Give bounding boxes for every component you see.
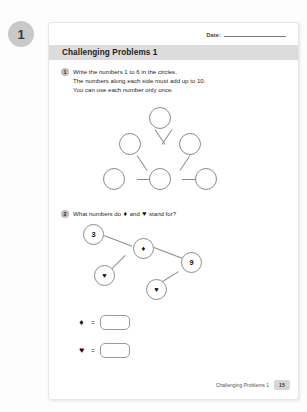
triangle-node-apex[interactable]	[149, 107, 171, 129]
question-2-text: What numbers do ♦ and ♥ stand for?	[73, 209, 176, 218]
heart-icon: ♥	[77, 346, 86, 355]
edge-midright-botright	[180, 155, 191, 170]
answer-box-heart[interactable]	[100, 343, 130, 358]
equals-sign: =	[91, 347, 95, 354]
answer-row-heart: ♥ =	[77, 343, 130, 358]
network-node-nine[interactable]: 9	[181, 252, 202, 273]
question-2-number: 2	[61, 210, 69, 218]
equals-sign: =	[91, 319, 95, 326]
answer-section: ♦ = ♥ =	[77, 315, 130, 371]
network-node-diamond[interactable]: ♦	[133, 238, 154, 259]
question-1-line-3: You can use each number only once.	[73, 85, 205, 94]
triangle-node-mid-right[interactable]	[179, 133, 201, 155]
answer-row-diamond: ♦ =	[77, 315, 130, 330]
edge-apex-midright	[162, 129, 173, 144]
page-title: Challenging Problems 1	[62, 48, 157, 57]
triangle-node-mid-left[interactable]	[119, 133, 141, 155]
date-write-line[interactable]	[224, 36, 286, 37]
triangle-node-bottom-right[interactable]	[195, 168, 217, 190]
network-node-heart-1[interactable]: ♥	[94, 265, 115, 286]
question-1-number: 1	[61, 68, 69, 76]
answer-box-diamond[interactable]	[100, 315, 130, 330]
triangle-node-bottom-left[interactable]	[103, 168, 125, 190]
triangle-node-bottom-mid[interactable]	[149, 168, 171, 190]
page-number-badge: 15	[274, 380, 290, 390]
footer-title: Challenging Problems 1	[216, 382, 269, 388]
date-field[interactable]: Date:	[207, 32, 286, 38]
question-1-text: Write the numbers 1 to 6 in the circles.…	[73, 67, 205, 94]
question-1-line-1: Write the numbers 1 to 6 in the circles.	[73, 67, 205, 76]
worksheet-canvas: 1 Date: Challenging Problems 1 1 Write t…	[0, 0, 307, 412]
diamond-icon: ♦	[77, 318, 86, 327]
worksheet-page: Date: Challenging Problems 1 1 Write the…	[48, 22, 299, 400]
date-label: Date:	[207, 32, 221, 38]
diamond-icon: ♦	[124, 210, 128, 217]
heart-icon: ♥	[142, 210, 146, 217]
worksheet-title-band: Challenging Problems 1	[49, 45, 298, 60]
unit-number-badge: 1	[8, 21, 34, 47]
page-footer: Challenging Problems 1 15	[216, 380, 290, 390]
question-2-suffix: stand for?	[149, 209, 176, 218]
question-2: 2 What numbers do ♦ and ♥ stand for?	[61, 209, 288, 218]
symbol-network-diagram: 3 ♦ 9 ♥ ♥	[61, 221, 286, 303]
edge-diamond-nine	[154, 247, 182, 259]
edge-midleft-botleft	[137, 155, 148, 170]
network-node-three[interactable]: 3	[83, 224, 104, 245]
question-2-prefix: What numbers do	[73, 209, 121, 218]
edge-three-diamond	[104, 235, 132, 247]
triangle-circles-diagram	[61, 105, 286, 195]
network-node-heart-2[interactable]: ♥	[146, 279, 167, 300]
question-1: 1 Write the numbers 1 to 6 in the circle…	[61, 67, 288, 94]
question-1-line-2: The numbers along each side must add up …	[73, 76, 205, 85]
question-2-mid: and	[130, 209, 140, 218]
